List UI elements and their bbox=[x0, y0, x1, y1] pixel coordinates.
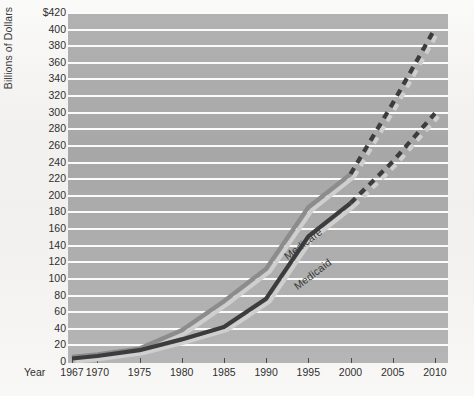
y-axis-tick-label: 180 bbox=[24, 206, 66, 216]
x-axis-tick-label: 1975 bbox=[117, 366, 163, 378]
y-axis-tick-label: 100 bbox=[24, 273, 66, 283]
y-axis-tick-label: 400 bbox=[24, 24, 66, 34]
medicare-line-projection bbox=[351, 29, 435, 174]
y-axis-tick-label: 200 bbox=[24, 190, 66, 200]
y-axis-tick-label: $420 bbox=[24, 7, 66, 17]
x-axis-tick-label: 1995 bbox=[285, 366, 331, 378]
series-layer bbox=[68, 12, 448, 363]
x-axis-tick-labels: 1967197019751980198519901995200020052010 bbox=[0, 366, 474, 384]
y-axis-tick-label: 280 bbox=[24, 123, 66, 133]
x-axis-tick-label: 1980 bbox=[159, 366, 205, 378]
plot-area bbox=[68, 12, 448, 363]
y-axis-tick-label: 80 bbox=[24, 290, 66, 300]
x-axis-tick-label: 2005 bbox=[370, 366, 416, 378]
x-axis-tick-label: 1990 bbox=[243, 366, 289, 378]
y-axis-tick-label: 360 bbox=[24, 57, 66, 67]
y-axis-tick-label: 320 bbox=[24, 90, 66, 100]
y-axis-tick-label: 380 bbox=[24, 40, 66, 50]
y-axis-tick-label: 140 bbox=[24, 240, 66, 250]
x-axis-tick-label: 2010 bbox=[412, 366, 458, 378]
y-axis-tick-label: 300 bbox=[24, 107, 66, 117]
y-axis-tick-label: 120 bbox=[24, 256, 66, 266]
y-axis-tick-label: 160 bbox=[24, 223, 66, 233]
medicaid-line-projection bbox=[351, 113, 435, 203]
series-shadow-medicaid bbox=[76, 116, 439, 361]
x-axis-tick-label: 2000 bbox=[328, 366, 374, 378]
y-axis-tick-labels: $420400380360340320300280260240220200180… bbox=[24, 0, 66, 396]
x-axis-tick-label: 1985 bbox=[201, 366, 247, 378]
y-axis-tick-label: 40 bbox=[24, 323, 66, 333]
y-axis-tick-label: 340 bbox=[24, 73, 66, 83]
chart-figure: Billions of Dollars $4204003803603403203… bbox=[0, 0, 474, 396]
y-axis-tick-label: 60 bbox=[24, 306, 66, 316]
y-axis-tick-label: 20 bbox=[24, 339, 66, 349]
y-axis-title: Billions of Dollars bbox=[2, 0, 18, 128]
y-axis-tick-label: 0 bbox=[24, 356, 66, 366]
y-axis-tick-label: 220 bbox=[24, 173, 66, 183]
y-axis-tick-label: 240 bbox=[24, 157, 66, 167]
series-shadow-path bbox=[354, 116, 438, 206]
y-axis-tick-label: 260 bbox=[24, 140, 66, 150]
x-axis-tick-label: 1970 bbox=[74, 366, 120, 378]
